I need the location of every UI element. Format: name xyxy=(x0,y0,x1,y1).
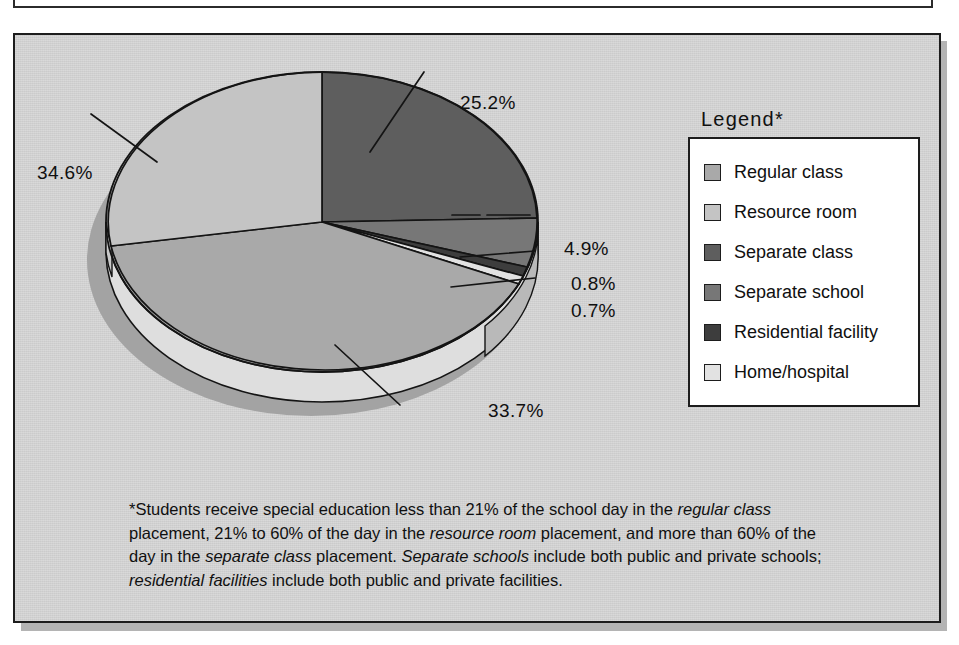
footnote-em-separate-schools: Separate schools xyxy=(401,547,529,565)
top-border-box xyxy=(13,0,933,8)
legend-label-residential-facility: Residential facility xyxy=(734,322,878,343)
legend-swatch-separate-class xyxy=(704,244,721,261)
legend-swatch-regular-class xyxy=(704,164,721,181)
label-separate-class: 25.2% xyxy=(460,92,516,114)
legend-label-regular-class: Regular class xyxy=(734,162,843,183)
legend-item-separate-school[interactable]: Separate school xyxy=(704,272,906,312)
legend-swatch-home-hospital xyxy=(704,364,721,381)
footnote-em-regular-class: regular class xyxy=(678,500,772,518)
legend-item-resource-room[interactable]: Resource room xyxy=(704,192,906,232)
pie-slice-resource-room xyxy=(108,72,322,246)
footnote-text-4: placement. xyxy=(312,547,402,565)
footnote-em-separate-class: separate class xyxy=(205,547,311,565)
legend-item-home-hospital[interactable]: Home/hospital xyxy=(704,352,906,392)
label-residential-facility: 0.8% xyxy=(571,273,616,295)
legend-swatch-resource-room xyxy=(704,204,721,221)
pie-top-face xyxy=(108,72,537,370)
label-home-hospital: 0.7% xyxy=(571,300,616,322)
footnote-em-resource-room: resource room xyxy=(430,524,536,542)
legend-swatch-separate-school xyxy=(704,284,721,301)
pie-chart: 25.2% 34.6% 4.9% 0.8% 0.7% 33.7% xyxy=(15,35,715,465)
figure-panel: 25.2% 34.6% 4.9% 0.8% 0.7% 33.7% Legend*… xyxy=(13,33,941,623)
legend-label-separate-school: Separate school xyxy=(734,282,864,303)
footnote-text-1: *Students receive special education less… xyxy=(129,500,678,518)
legend-label-resource-room: Resource room xyxy=(734,202,857,223)
legend-item-regular-class[interactable]: Regular class xyxy=(704,152,906,192)
legend-box: Regular class Resource room Separate cla… xyxy=(688,137,920,407)
legend: Legend* Regular class Resource room Sepa… xyxy=(688,108,934,407)
footnote-text-6: include both public and private faciliti… xyxy=(267,571,562,589)
footnote-em-residential-facilities: residential facilities xyxy=(129,571,267,589)
legend-item-separate-class[interactable]: Separate class xyxy=(704,232,906,272)
footnote: *Students receive special education less… xyxy=(129,498,829,592)
legend-title: Legend* xyxy=(701,108,934,131)
legend-label-home-hospital: Home/hospital xyxy=(734,362,849,383)
legend-swatch-residential-facility xyxy=(704,324,721,341)
legend-label-separate-class: Separate class xyxy=(734,242,853,263)
footnote-text-2: placement, 21% to 60% of the day in the xyxy=(129,524,430,542)
label-separate-school: 4.9% xyxy=(564,238,609,260)
pie-chart-svg xyxy=(15,35,715,465)
label-regular-class: 33.7% xyxy=(488,400,544,422)
footnote-text-5: include both public and private schools; xyxy=(529,547,822,565)
label-resource-room: 34.6% xyxy=(37,162,93,184)
legend-item-residential-facility[interactable]: Residential facility xyxy=(704,312,906,352)
